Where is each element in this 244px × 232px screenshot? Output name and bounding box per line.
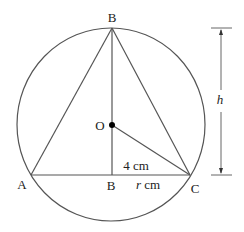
label-bc-length: r cm (136, 177, 160, 192)
arrow-up-icon (219, 29, 223, 35)
geometry-diagram: B O A B C 4 cm r cm h (0, 0, 244, 232)
label-oc-length: 4 cm (123, 158, 149, 173)
label-r-unit: cm (141, 177, 160, 192)
side-ab (31, 28, 112, 175)
label-b-bottom: B (107, 178, 116, 193)
label-b-top: B (108, 10, 117, 25)
arrow-down-icon (219, 168, 223, 174)
label-h: h (217, 92, 224, 107)
label-c: C (191, 181, 200, 196)
side-bc (112, 28, 190, 175)
label-a: A (17, 177, 27, 192)
label-o: O (95, 118, 104, 133)
center-point-o (109, 122, 115, 128)
